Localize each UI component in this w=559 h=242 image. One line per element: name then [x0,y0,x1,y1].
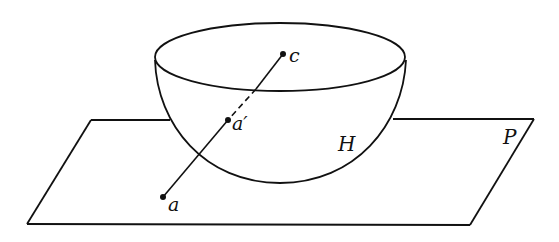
point-a-prime [225,117,231,123]
point-a [160,194,166,200]
label-c: c [289,44,300,66]
diagram-canvas: c a′ a H P [0,0,559,242]
point-c [280,51,286,57]
label-h: H [337,132,356,156]
hemisphere-h [155,23,406,183]
label-p: P [502,125,517,149]
label-a-prime: a′ [232,112,248,134]
label-a: a [168,193,179,215]
